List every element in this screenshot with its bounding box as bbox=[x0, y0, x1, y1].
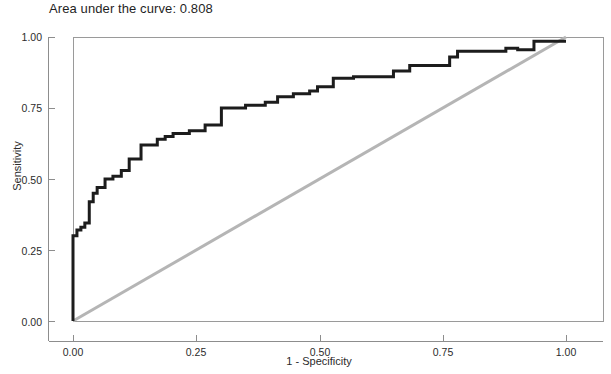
y-axis-title: Sensitivity bbox=[11, 126, 23, 206]
plot-canvas bbox=[0, 0, 611, 374]
x-tick-label-0.25: 0.25 bbox=[176, 346, 216, 358]
y-tick-label-0.00: 0.00 bbox=[8, 316, 42, 328]
roc-chart-figure: Area under the curve: 0.808 1.00 0.75 0.… bbox=[0, 0, 611, 374]
reference-diagonal-line bbox=[73, 37, 566, 321]
y-tick-label-0.25: 0.25 bbox=[8, 245, 42, 257]
x-axis-ticks bbox=[74, 335, 567, 341]
x-tick-label-0.00: 0.00 bbox=[53, 346, 93, 358]
y-tick-label-1.00: 1.00 bbox=[8, 31, 42, 43]
x-axis-title: 1 - Specificity bbox=[229, 355, 409, 367]
y-axis-ticks bbox=[49, 38, 55, 322]
x-tick-label-1.00: 1.00 bbox=[546, 346, 586, 358]
plot-frame bbox=[74, 38, 604, 322]
x-tick-label-0.75: 0.75 bbox=[423, 346, 463, 358]
y-tick-label-0.75: 0.75 bbox=[8, 102, 42, 114]
